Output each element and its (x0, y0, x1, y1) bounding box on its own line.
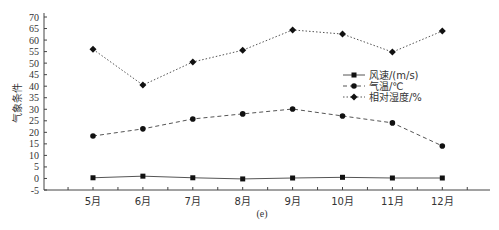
x-tick-label: 9月 (284, 196, 300, 207)
legend-item: 风速/(m/s) (343, 70, 419, 81)
x-tick-label: 8月 (235, 196, 251, 207)
x-tick-label: 5月 (85, 196, 101, 207)
y-tick-label: 20 (29, 127, 39, 138)
legend-item: 相对湿度/% (343, 91, 422, 103)
x-tick-label: 6月 (135, 196, 151, 207)
legend: 风速/(m/s)气温/℃相对湿度/% (343, 70, 422, 103)
y-tick-label: 0 (34, 173, 39, 184)
y-tick-label: 70 (29, 12, 39, 23)
y-tick-label: 30 (29, 104, 39, 115)
y-tick-label: 50 (29, 58, 39, 69)
series-line (90, 106, 445, 149)
x-tick-label: 10月 (331, 196, 354, 207)
legend-label: 风速/(m/s) (369, 70, 419, 81)
line-chart: -50510152025303540455055606570 5月6月7月8月9… (0, 0, 499, 230)
x-tick-label: 11月 (381, 196, 404, 207)
legend-item: 气温/℃ (343, 80, 404, 92)
y-tick-label: -5 (31, 185, 39, 196)
x-tick-label: 12月 (431, 196, 454, 207)
y-tick-label: 40 (29, 81, 39, 92)
series-line (91, 174, 445, 182)
y-axis: -50510152025303540455055606570 (29, 12, 47, 196)
y-tick-label: 35 (29, 92, 39, 103)
y-tick-label: 25 (29, 115, 39, 126)
y-axis-label: 气象条件 (11, 83, 23, 123)
y-tick-label: 45 (29, 69, 39, 80)
x-axis: 5月6月7月8月9月10月11月12月 (44, 187, 490, 207)
x-tick-label: 7月 (185, 196, 201, 207)
legend-label: 气温/℃ (369, 80, 404, 92)
legend-label: 相对湿度/% (369, 91, 422, 103)
y-tick-label: 10 (29, 150, 39, 161)
series-group (90, 26, 446, 181)
y-tick-label: 60 (29, 35, 39, 46)
chart-caption: (e) (256, 208, 267, 220)
y-tick-label: 55 (29, 46, 39, 57)
y-tick-label: 15 (29, 138, 39, 149)
y-tick-label: 5 (34, 161, 39, 172)
y-tick-label: 65 (29, 23, 39, 34)
